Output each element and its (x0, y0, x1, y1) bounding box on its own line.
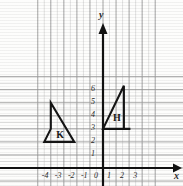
y-tick-label-6: 6 (91, 85, 95, 93)
x-tick-label-4: 0 (94, 172, 98, 180)
y-axis-label: y (99, 10, 103, 20)
shape-label-k: K (56, 130, 64, 140)
y-tick-label-4: 4 (91, 111, 95, 119)
y-tick-label-3: 3 (91, 124, 95, 132)
x-tick-label-3: -1 (81, 172, 88, 180)
x-tick-label-6: 2 (120, 172, 124, 180)
x-axis-label: x (174, 171, 179, 181)
x-tick-label-5: 1 (107, 172, 111, 180)
x-tick-label-0: -4 (42, 172, 49, 180)
x-tick-label-2: -2 (68, 172, 75, 180)
y-tick-label-5: 5 (91, 98, 95, 106)
shape-label-h: H (113, 113, 121, 123)
x-tick-label-7: 3 (133, 172, 137, 180)
x-tick-label-1: -3 (55, 172, 62, 180)
coordinate-grid-figure: -4-3-2-10123123456 y x KH (0, 0, 183, 186)
y-tick-label-2: 2 (91, 137, 95, 145)
y-tick-label-1: 1 (91, 150, 95, 158)
